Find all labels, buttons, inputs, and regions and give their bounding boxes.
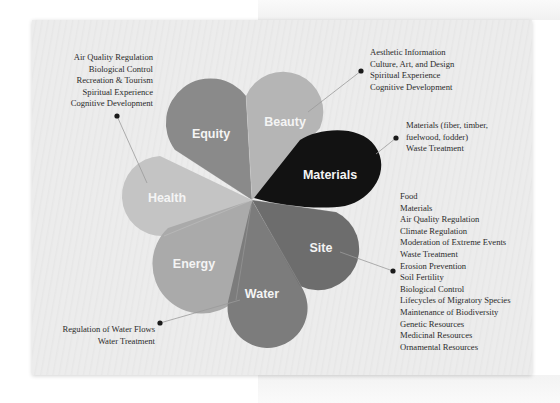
callout-item: Materials (fiber, timber, — [406, 120, 488, 132]
leader-dot-health — [114, 113, 119, 118]
callout-item: Medicinal Resources — [400, 330, 511, 342]
petal-label-site: Site — [310, 241, 333, 255]
callout-site: Food Materials Air Quality Regulation Cl… — [400, 191, 511, 353]
callout-item: Water Treatment — [63, 336, 155, 348]
callout-item: Spiritual Experience — [370, 70, 454, 82]
leader-dot-materials — [393, 135, 398, 140]
callout-item: Ornamental Resources — [400, 342, 511, 354]
callout-item: Moderation of Extreme Events — [400, 237, 511, 249]
callout-water: Regulation of Water Flows Water Treatmen… — [63, 324, 155, 347]
petal-label-water: Water — [245, 287, 279, 301]
petal-label-materials: Materials — [303, 168, 357, 182]
callout-item: Cognitive Development — [370, 82, 454, 94]
petal-label-energy: Energy — [173, 257, 215, 271]
callout-item: fuelwood, fodder) — [406, 132, 488, 144]
callout-item: Cognitive Development — [71, 98, 153, 110]
callout-item: Spiritual Experience — [71, 87, 153, 99]
callout-item: Climate Regulation — [400, 226, 511, 238]
callout-item: Biological Control — [71, 64, 153, 76]
callout-item: Air Quality Regulation — [400, 214, 511, 226]
petal-label-beauty: Beauty — [264, 115, 306, 129]
callout-item: Air Quality Regulation — [71, 52, 153, 64]
callout-item: Waste Treatment — [400, 249, 511, 261]
callout-item: Aesthetic Information — [370, 47, 454, 59]
callout-item: Food — [400, 191, 511, 203]
callout-item: Culture, Art, and Design — [370, 59, 454, 71]
callout-item: Biological Control — [400, 284, 511, 296]
callout-item: Materials — [400, 203, 511, 215]
callout-item: Erosion Prevention — [400, 261, 511, 273]
callout-item: Waste Treatment — [406, 143, 488, 155]
callout-item: Soil Fertility — [400, 272, 511, 284]
leader-dot-water — [157, 320, 162, 325]
leader-dot-beauty — [358, 68, 363, 73]
callout-item: Regulation of Water Flows — [63, 324, 155, 336]
callout-materials: Materials (fiber, timber, fuelwood, fodd… — [406, 120, 488, 155]
petal-label-health: Health — [148, 191, 186, 205]
callout-health: Air Quality Regulation Biological Contro… — [71, 52, 153, 110]
callout-item: Recreation & Tourism — [71, 75, 153, 87]
petal-label-equity: Equity — [192, 127, 230, 141]
callout-item: Genetic Resources — [400, 319, 511, 331]
callout-item: Lifecycles of Migratory Species — [400, 295, 511, 307]
leader-dot-site — [390, 268, 395, 273]
callout-beauty: Aesthetic Information Culture, Art, and … — [370, 47, 454, 93]
callout-item: Maintenance of Biodiversity — [400, 307, 511, 319]
